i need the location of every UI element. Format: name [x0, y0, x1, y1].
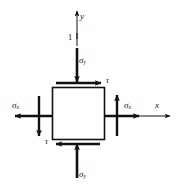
figure-canvas [0, 0, 178, 189]
thickness-label-1: 1 [68, 33, 72, 42]
sigma-x-right-label: σx [124, 101, 131, 111]
sigma-x-left-subscript: x [16, 104, 18, 110]
sigma-y-top-subscript: y [83, 59, 85, 65]
tau-bottom-label: τ [45, 138, 48, 146]
sigma-y-top-label: σy [79, 56, 86, 66]
sigma-x-right-subscript: x [128, 104, 130, 110]
sigma-x-left-label: σx [12, 101, 19, 111]
sigma-y-bottom-label: σy [79, 170, 86, 180]
axis-label-x: x [155, 101, 159, 110]
stress-element-figure: y x 1 σy σy σx σx τ τ [0, 0, 178, 189]
tau-top-label: τ [106, 77, 109, 85]
sigma-y-bottom-subscript: y [83, 173, 85, 179]
stress-element-square [53, 88, 105, 140]
axis-label-y: y [80, 12, 84, 21]
